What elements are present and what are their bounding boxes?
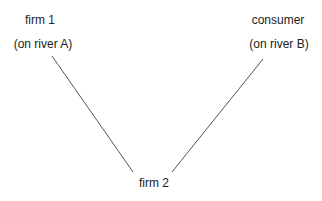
node-consumer-name: consumer bbox=[252, 13, 305, 27]
diagram-canvas bbox=[0, 0, 322, 201]
node-firm1-name: firm 1 bbox=[25, 13, 55, 27]
node-firm2-name: firm 2 bbox=[139, 176, 169, 190]
edge-consumer-firm2 bbox=[172, 59, 263, 172]
edge-firm1-firm2 bbox=[52, 56, 133, 172]
node-consumer-location: (on river B) bbox=[249, 37, 308, 51]
node-firm1-location: (on river A) bbox=[14, 37, 73, 51]
